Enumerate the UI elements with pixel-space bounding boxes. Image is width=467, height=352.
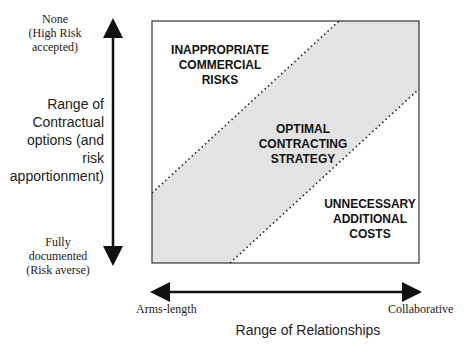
y-top-line-2: (High Risk <box>10 26 100 40</box>
x-axis-left-label: Arms-length <box>136 302 197 317</box>
x-axis-right-label: Collaborative <box>388 302 453 317</box>
region-unnecessary-costs: UNNECESSARY ADDITIONAL COSTS <box>315 197 425 242</box>
y-axis-title: Range of Contractual options (and risk a… <box>2 95 104 185</box>
y-bottom-line-2: documented <box>10 249 106 263</box>
y-axis-top-label: None (High Risk accepted) <box>10 12 100 54</box>
region2-line-3: STRATEGY <box>248 152 358 167</box>
y-bottom-line-3: (Risk averse) <box>10 263 106 277</box>
y-top-line-3: accepted) <box>10 40 100 54</box>
y-title-line-4: apportionment) <box>2 167 104 185</box>
region3-line-3: COSTS <box>315 227 425 242</box>
region2-line-1: OPTIMAL <box>248 122 358 137</box>
y-bottom-line-1: Fully <box>10 235 106 249</box>
region1-line-3: RISKS <box>165 73 275 88</box>
region-optimal-strategy: OPTIMAL CONTRACTING STRATEGY <box>248 122 358 167</box>
region1-line-2: COMMERCIAL <box>165 58 275 73</box>
y-title-line-3: options (and risk <box>2 131 104 167</box>
y-title-line-2: Contractual <box>2 113 104 131</box>
region-inappropriate-risks: INAPPROPRIATE COMMERCIAL RISKS <box>165 43 275 88</box>
region2-line-2: CONTRACTING <box>248 137 358 152</box>
y-top-line-1: None <box>10 12 100 26</box>
y-axis-bottom-label: Fully documented (Risk averse) <box>10 235 106 277</box>
region3-line-1: UNNECESSARY <box>315 197 425 212</box>
y-title-line-1: Range of <box>2 95 104 113</box>
x-axis-title: Range of Relationships <box>200 322 416 338</box>
region1-line-1: INAPPROPRIATE <box>165 43 275 58</box>
region3-line-2: ADDITIONAL <box>315 212 425 227</box>
